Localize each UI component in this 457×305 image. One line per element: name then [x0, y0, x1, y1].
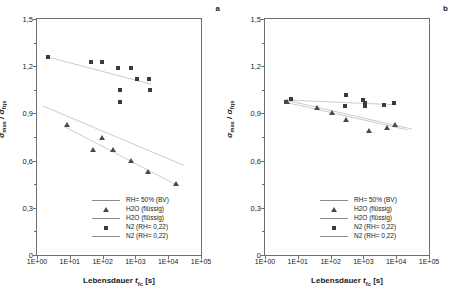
x-axis-title-b: Lebensdauer tfc [s]: [264, 276, 430, 287]
y-axis-title-b: σmax / σfqs: [225, 101, 236, 138]
data-point-square: [343, 104, 347, 108]
data-point-square: [363, 104, 367, 108]
legend-line-icon: [92, 200, 120, 201]
y-tick-minor: [34, 137, 37, 138]
data-point-square: [89, 60, 93, 64]
y-tick-label: 1,5: [23, 15, 33, 24]
data-point-triangle: [99, 135, 105, 140]
y-tick-minor: [262, 137, 265, 138]
legend-a: RH= 50% (BV)H2O (flüssig)H2O (flüssig)N2…: [91, 196, 169, 241]
data-point-square: [129, 66, 133, 70]
legend-line-icon: [320, 200, 348, 201]
plot-area-a: RH= 50% (BV)H2O (flüssig)H2O (flüssig)N2…: [36, 18, 202, 256]
y-tick-label: 0,9: [23, 109, 33, 118]
y-tick: [261, 161, 265, 162]
x-tick-label: 1E+02: [92, 258, 112, 265]
trend-line: [44, 106, 184, 165]
y-tick-label: 0,6: [23, 156, 33, 165]
data-point-square: [382, 103, 386, 107]
data-point-triangle: [392, 122, 398, 127]
legend-item: N2 (RH= 0,22): [91, 232, 169, 241]
legend-line-icon: [320, 218, 348, 219]
y-tick-minor: [34, 231, 37, 232]
data-point-square: [135, 77, 139, 81]
y-tick-label: 1,5: [251, 15, 261, 24]
data-point-triangle: [329, 110, 335, 115]
x-tick-label: 1E+04: [386, 258, 406, 265]
x-tick-label: 1E+05: [419, 258, 439, 265]
legend-key: [91, 218, 121, 219]
plot-area-b: RH= 50% (BV)H2O (flüssig)H2O (flüssig)N2…: [264, 18, 430, 256]
legend-key: [319, 218, 349, 219]
legend-line-icon: [92, 218, 120, 219]
x-tick-label: 1E+03: [125, 258, 145, 265]
trend-line: [65, 127, 178, 186]
legend-square-icon: [104, 226, 108, 230]
y-tick-minor: [262, 231, 265, 232]
y-tick: [33, 161, 37, 162]
panel-b: b RH= 50% (BV)H2O (flüssig)H2O (flüssig)…: [228, 0, 456, 305]
y-tick-label: 0,3: [23, 203, 33, 212]
data-point-triangle: [314, 105, 320, 110]
y-tick-label: 1,2: [23, 62, 33, 71]
legend-triangle-icon: [331, 207, 337, 212]
data-point-triangle: [145, 169, 151, 174]
data-point-square: [118, 88, 122, 92]
legend-key: [319, 200, 349, 201]
data-point-triangle: [90, 147, 96, 152]
panel-letter-a: a: [216, 4, 220, 13]
data-point-triangle: [284, 99, 290, 104]
legend-key: [319, 236, 349, 237]
legend-key: [91, 207, 121, 212]
data-point-triangle: [110, 147, 116, 152]
x-tick-label: 1E+04: [158, 258, 178, 265]
x-tick-label: 1E+00: [255, 258, 275, 265]
data-point-square: [147, 77, 151, 81]
legend-label: N2 (RH= 0,22): [349, 231, 396, 241]
data-point-triangle: [173, 181, 179, 186]
figure-container: a RH= 50% (BV)H2O (flüssig)H2O (flüssig)…: [0, 0, 457, 305]
x-tick-label: 1E+05: [191, 258, 211, 265]
legend-triangle-icon: [103, 207, 109, 212]
data-point-square: [344, 93, 348, 97]
legend-key: [91, 200, 121, 201]
x-tick-label: 1E+00: [27, 258, 47, 265]
legend-line-icon: [320, 236, 348, 237]
x-axis-title-a: Lebensdauer tfc [s]: [36, 276, 202, 287]
data-point-triangle: [366, 128, 372, 133]
legend-b: RH= 50% (BV)H2O (flüssig)H2O (flüssig)N2…: [319, 196, 397, 241]
y-axis-title-a: σmax / σfqs: [0, 101, 7, 138]
y-tick-minor: [262, 184, 265, 185]
y-tick-minor: [34, 43, 37, 44]
y-tick: [33, 208, 37, 209]
y-tick-minor: [262, 43, 265, 44]
y-tick: [33, 19, 37, 20]
data-point-square: [392, 101, 396, 105]
y-tick: [261, 19, 265, 20]
data-point-triangle: [128, 158, 134, 163]
data-point-square: [148, 88, 152, 92]
data-point-square: [46, 55, 50, 59]
legend-key: [91, 226, 121, 230]
legend-item: N2 (RH= 0,22): [319, 232, 397, 241]
y-tick: [261, 208, 265, 209]
panel-letter-b: b: [443, 4, 448, 13]
y-tick-label: 0,9: [251, 109, 261, 118]
x-tick-label: 1E+03: [353, 258, 373, 265]
y-tick-label: 0,6: [251, 156, 261, 165]
data-point-triangle: [343, 117, 349, 122]
legend-square-icon: [332, 226, 336, 230]
y-tick-minor: [262, 90, 265, 91]
y-tick-minor: [34, 90, 37, 91]
y-tick: [261, 113, 265, 114]
legend-line-icon: [92, 236, 120, 237]
x-tick-label: 1E+01: [288, 258, 308, 265]
legend-key: [319, 207, 349, 212]
legend-label: N2 (RH= 0,22): [121, 231, 168, 241]
x-tick-label: 1E+02: [320, 258, 340, 265]
data-point-square: [100, 60, 104, 64]
x-tick-label: 1E+01: [60, 258, 80, 265]
panel-a: a RH= 50% (BV)H2O (flüssig)H2O (flüssig)…: [0, 0, 228, 305]
y-tick: [33, 113, 37, 114]
legend-key: [319, 226, 349, 230]
